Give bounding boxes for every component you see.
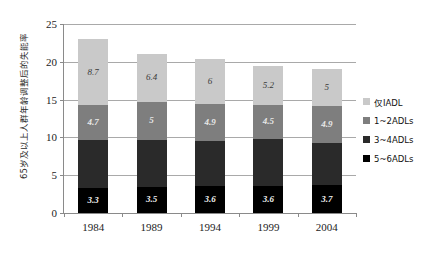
bar-value-label: 4.9 [204,118,215,127]
bar-segment[interactable]: 3.6 [195,186,225,213]
bar-group[interactable]: 5.24.53.6 [253,66,283,213]
bar-value-label: 3.3 [88,196,99,205]
y-tick-label: 25 [46,18,57,30]
legend-item[interactable]: 5~6ADLs [363,149,429,168]
bar-group[interactable]: 64.93.6 [195,59,225,213]
plot-area: 0510152025 8.74.73.36.453.564.93.65.24.5… [63,24,356,214]
bar-segment[interactable] [137,140,167,187]
bar-segment[interactable]: 6 [195,59,225,104]
y-tick-mark [60,24,64,25]
x-tick-mark [122,213,123,217]
bar-segment[interactable]: 4.9 [195,104,225,141]
chart-container: 65岁及以上人群年龄调整后的失能率 0510152025 8.74.73.36.… [0,0,429,255]
legend-swatch-icon [363,117,370,124]
legend-item[interactable]: 3~4ADLs [363,130,429,149]
y-tick-mark [60,100,64,101]
x-tick-label: 1994 [199,221,221,233]
bar-segment[interactable]: 4.7 [78,105,108,141]
bar-value-label: 6.4 [146,73,157,82]
x-tick-label: 1984 [82,221,104,233]
bar-value-label: 4.9 [321,120,332,129]
bar-group[interactable]: 8.74.73.3 [78,39,108,213]
y-tick-label: 20 [46,56,57,68]
bar-segment[interactable]: 5 [137,102,167,140]
y-axis-title: 65岁及以上人群年龄调整后的失能率 [17,6,29,206]
bar-group[interactable]: 6.453.5 [137,54,167,213]
legend-item[interactable]: 仅IADL [363,92,429,111]
legend-label: 3~4ADLs [374,135,413,145]
x-tick-label: 1999 [257,221,279,233]
bar-value-label: 5 [149,116,154,125]
y-tick-mark [60,175,64,176]
x-tick-mark [298,213,299,217]
legend-label: 仅IADL [374,96,403,108]
bar-value-label: 5.2 [263,81,274,90]
bar-segment[interactable]: 5.2 [253,66,283,105]
x-tick-label: 1989 [141,221,163,233]
legend-swatch-icon [363,155,370,162]
y-tick-mark [60,137,64,138]
bar-segment[interactable]: 3.7 [312,185,342,213]
bar-segment[interactable]: 8.7 [78,39,108,105]
x-tick-mark [64,213,65,217]
x-tick-label: 2004 [316,221,338,233]
y-tick-label: 10 [46,131,57,143]
legend-label: 5~6ADLs [374,154,413,164]
x-tick-mark [181,213,182,217]
legend-swatch-icon [363,136,370,143]
bar-group[interactable]: 54.93.7 [312,69,342,213]
gridline [64,24,356,25]
bar-segment[interactable]: 4.9 [312,106,342,143]
bar-value-label: 4.5 [263,117,274,126]
bar-segment[interactable]: 4.5 [253,105,283,139]
bar-value-label: 6 [208,77,213,86]
bar-segment[interactable] [312,143,342,185]
legend-label: 1~2ADLs [374,116,413,126]
bar-segment[interactable]: 3.3 [78,188,108,213]
bar-segment[interactable] [253,139,283,186]
y-tick-label: 15 [46,94,57,106]
bar-segment[interactable]: 3.5 [137,187,167,213]
bar-segment[interactable]: 3.6 [253,186,283,213]
bar-value-label: 3.6 [204,195,215,204]
bar-value-label: 8.7 [88,68,99,77]
bar-value-label: 3.6 [263,195,274,204]
bar-value-label: 3.5 [146,195,157,204]
bar-segment[interactable]: 5 [312,69,342,107]
bar-value-label: 5 [325,83,330,92]
bar-segment[interactable]: 6.4 [137,54,167,102]
bar-segment[interactable] [78,140,108,188]
legend-item[interactable]: 1~2ADLs [363,111,429,130]
y-tick-label: 5 [52,169,58,181]
legend-swatch-icon [363,98,370,105]
bar-value-label: 4.7 [88,118,99,127]
bar-segment[interactable] [195,141,225,186]
x-tick-mark [356,213,357,217]
bar-value-label: 3.7 [321,195,332,204]
y-tick-mark [60,62,64,63]
chart-legend: 仅IADL1~2ADLs3~4ADLs5~6ADLs [363,92,429,168]
x-tick-mark [239,213,240,217]
y-tick-label: 0 [52,207,58,219]
